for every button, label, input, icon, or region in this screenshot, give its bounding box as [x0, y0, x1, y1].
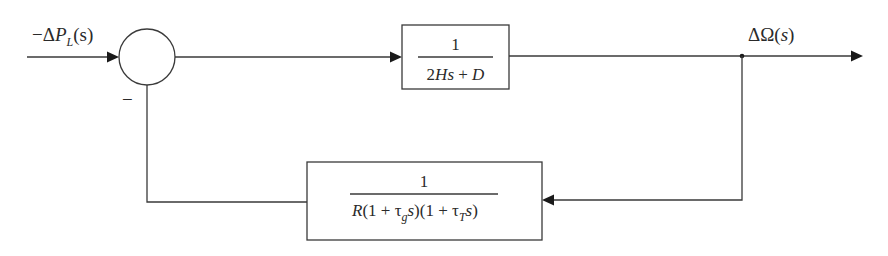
- forward-denominator: 2Hs + D: [427, 65, 486, 84]
- input-arrow-icon: [107, 52, 119, 63]
- block-diagram: −ΔPL(s) − 1 2Hs + D ΔΩ(s) 1 R(1: [0, 0, 888, 256]
- input-wire: [27, 52, 119, 63]
- feedback-sign-label: −: [122, 89, 133, 110]
- feedback-arrow-icon: [542, 195, 554, 206]
- forward-arrow-icon: [390, 52, 402, 63]
- input-signal-label: −ΔPL(s): [32, 24, 93, 49]
- forward-transfer-block: 1 2Hs + D: [402, 25, 509, 89]
- output-wire: [509, 51, 863, 62]
- output-arrow-icon: [851, 51, 863, 62]
- output-signal-label: ΔΩ(s): [748, 24, 794, 46]
- forward-wire: [175, 52, 402, 63]
- feedback-numerator: 1: [420, 172, 429, 191]
- feedback-wire-to-junction: [147, 85, 307, 202]
- feedback-transfer-block: 1 R(1 + τgs)(1 + τTs): [307, 162, 542, 240]
- forward-numerator: 1: [451, 35, 460, 54]
- summing-junction: [119, 29, 175, 85]
- feedback-wire-return: [542, 56, 742, 206]
